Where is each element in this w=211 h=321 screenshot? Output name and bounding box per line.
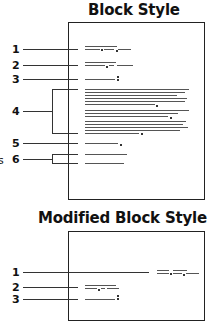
leader-line-6 [23, 159, 52, 160]
leader-line-3 [23, 79, 78, 80]
label-6: 6 [12, 154, 20, 165]
mod-label-1: 1 [12, 267, 20, 278]
label-5: 5 [12, 138, 20, 149]
modified-block-style-page [68, 231, 205, 321]
label-3: 3 [12, 74, 20, 85]
block-style-title: Block Style [88, 1, 180, 19]
leader-line-1 [23, 49, 78, 50]
mod-label-2: 2 [12, 282, 20, 293]
leader-line-4 [23, 111, 52, 112]
modified-block-style-title: Modified Block Style [38, 209, 207, 227]
label-2: 2 [12, 60, 20, 71]
edge-text-fragment: s [0, 154, 4, 167]
mod-leader-line-3 [23, 299, 78, 300]
mod-leader-line-2 [23, 287, 78, 288]
label-1: 1 [12, 44, 20, 55]
label-4: 4 [12, 106, 20, 117]
mod-label-3: 3 [12, 294, 20, 305]
leader-line-2 [23, 65, 78, 66]
leader-line-5 [23, 143, 78, 144]
mod-leader-line-1 [23, 272, 149, 273]
